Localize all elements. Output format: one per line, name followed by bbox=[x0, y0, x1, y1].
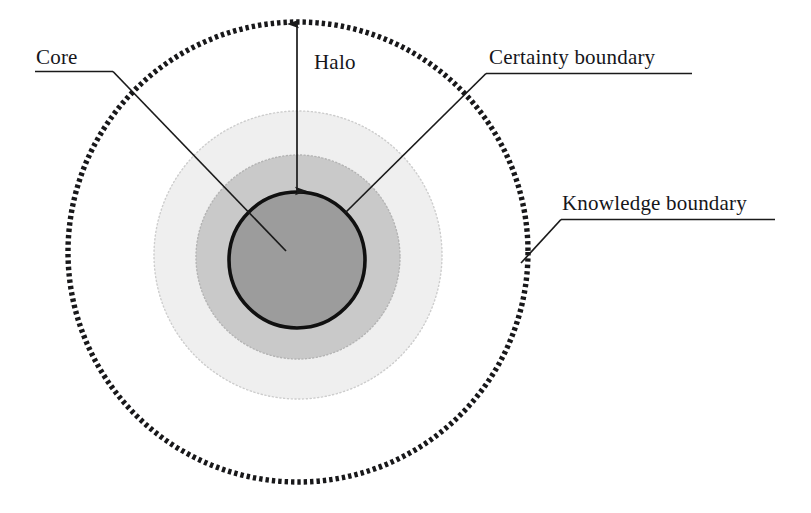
knowledge-leader bbox=[521, 220, 775, 264]
label-knowledge-boundary: Knowledge boundary bbox=[562, 191, 747, 216]
label-halo: Halo bbox=[314, 50, 356, 75]
label-certainty-boundary: Certainty boundary bbox=[489, 45, 655, 70]
label-core: Core bbox=[36, 45, 78, 70]
diagram-canvas bbox=[0, 0, 811, 513]
diagram-root: Core Halo Certainty boundary Knowledge b… bbox=[0, 0, 811, 513]
